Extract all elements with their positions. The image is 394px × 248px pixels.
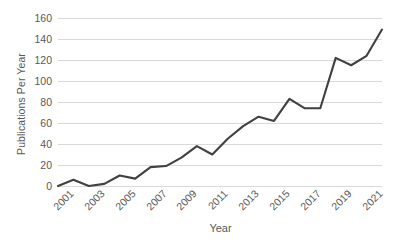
series-line-publications-per-year (58, 18, 382, 186)
y-tick-label: 120 (0, 55, 52, 66)
y-tick-label: 60 (0, 118, 52, 129)
x-axis-title: Year (58, 222, 383, 234)
y-tick-label: 160 (0, 13, 52, 24)
plot-area (58, 18, 382, 186)
y-tick-label: 100 (0, 76, 52, 87)
y-tick-label: 140 (0, 34, 52, 45)
y-tick-label: 40 (0, 139, 52, 150)
y-tick-label: 0 (0, 181, 52, 192)
y-tick-label: 80 (0, 97, 52, 108)
y-axis-tick-labels: 020406080100120140160 (0, 18, 52, 186)
series-path (58, 30, 382, 186)
line-chart: Publications Per Year 020406080100120140… (0, 0, 394, 248)
y-tick-label: 20 (0, 160, 52, 171)
x-axis-tick-labels: 2001200320052007200920112013201520172019… (58, 188, 382, 222)
